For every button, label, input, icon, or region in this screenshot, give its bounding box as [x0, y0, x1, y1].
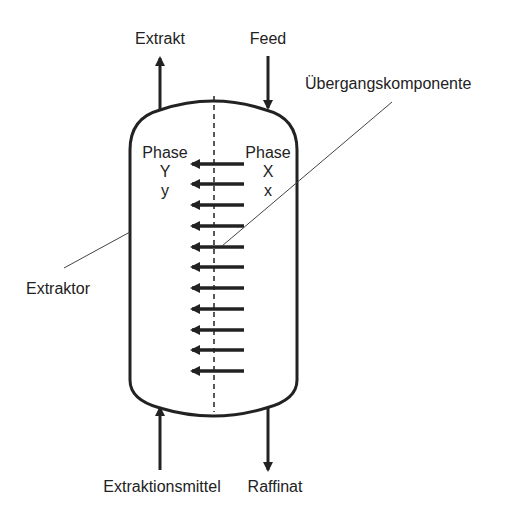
extraktor-leader	[64, 232, 130, 268]
extraktionsmittel-label: Extraktionsmittel	[103, 479, 220, 495]
phase-left-upper: Y	[160, 164, 171, 180]
raffinat-label: Raffinat	[248, 479, 303, 495]
phase-left-lower: y	[161, 183, 169, 199]
phase-right-upper: X	[263, 164, 274, 180]
transfer-arrows	[192, 164, 244, 371]
uebergangskomponente-label: Übergangskomponente	[305, 76, 471, 92]
extrakt-label: Extrakt	[135, 31, 185, 47]
uebergangskomponente-leader	[222, 102, 392, 246]
phase-left-title: Phase	[142, 145, 187, 161]
extraktor-label: Extraktor	[26, 281, 90, 297]
phase-right-lower: x	[264, 183, 272, 199]
phase-right-title: Phase	[245, 145, 290, 161]
feed-label: Feed	[250, 31, 286, 47]
